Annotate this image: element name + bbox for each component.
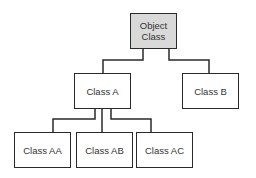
edge-class-a-to-class-aa xyxy=(53,108,95,132)
node-class-b: Class B xyxy=(182,73,239,109)
node-class-aa-label: Class AA xyxy=(23,145,62,156)
node-class-a-label: Class A xyxy=(86,86,118,97)
node-class-ab: Class AB xyxy=(76,132,133,168)
node-class-ab-label: Class AB xyxy=(85,145,124,156)
node-class-aa: Class AA xyxy=(14,132,71,168)
edge-root-to-class-a xyxy=(103,48,143,73)
edge-root-to-class-b xyxy=(169,48,209,73)
class-hierarchy-diagram: Object Class Class A Class B Class AA Cl… xyxy=(0,0,256,178)
node-class-a: Class A xyxy=(74,73,131,109)
node-class-ac: Class AC xyxy=(136,132,193,168)
node-object-class-label: Object Class xyxy=(140,20,167,42)
node-class-b-label: Class B xyxy=(194,86,227,97)
node-class-ac-label: Class AC xyxy=(145,145,184,156)
node-object-class: Object Class xyxy=(130,13,177,49)
edge-class-a-to-class-ac xyxy=(111,108,151,132)
